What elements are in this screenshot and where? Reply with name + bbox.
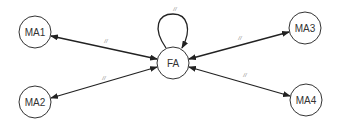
edge-fa-ma2: // — [51, 67, 157, 98]
node-ma3: MA3 — [289, 12, 321, 44]
agent-diagram: // // // // // FA MA1 MA2 MA3 MA4 — [0, 0, 341, 130]
node-label-ma3: MA3 — [295, 23, 316, 34]
node-ma1: MA1 — [19, 16, 51, 48]
node-ma4: MA4 — [290, 84, 322, 116]
edge-fa-ma4: // — [189, 67, 290, 96]
node-label-ma1: MA1 — [25, 27, 46, 38]
node-label-fa: FA — [167, 58, 180, 69]
node-label-ma2: MA2 — [25, 97, 46, 108]
node-label-ma4: MA4 — [296, 95, 317, 106]
edge-fa-ma1: // — [51, 36, 157, 59]
edge-label-fa-self: // — [172, 6, 178, 12]
node-ma2: MA2 — [19, 86, 51, 118]
node-fa: FA — [157, 47, 189, 79]
edge-label-fa-ma1: // — [103, 38, 109, 44]
edge-label-fa-ma2: // — [101, 75, 107, 81]
edge-label-fa-ma3: // — [237, 35, 243, 41]
edge-fa-ma3: // — [189, 32, 289, 59]
edge-label-fa-ma4: // — [242, 72, 248, 78]
edge-fa-self-loop: // — [158, 6, 187, 48]
